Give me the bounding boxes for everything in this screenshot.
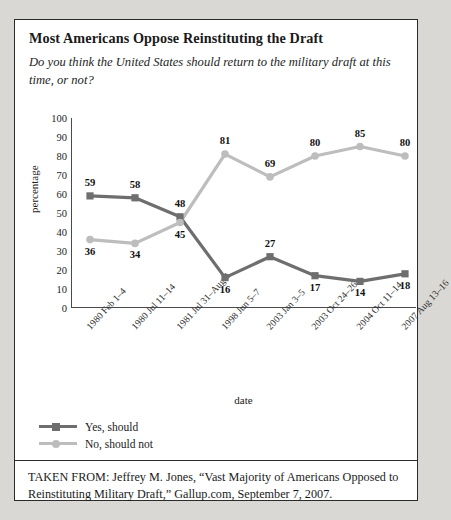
data-point-marker bbox=[131, 194, 138, 201]
data-point-marker bbox=[86, 192, 93, 199]
legend-label: Yes, should bbox=[85, 421, 138, 433]
y-axis-label: percentage bbox=[28, 165, 40, 213]
x-axis-label: date bbox=[71, 394, 416, 406]
data-value-label: 34 bbox=[130, 249, 141, 260]
data-point-marker bbox=[176, 219, 184, 227]
y-axis-tick: 20 bbox=[57, 265, 68, 276]
line-chart: percentage date 1009080706050403020100 1… bbox=[15, 106, 419, 411]
data-point-marker bbox=[401, 270, 408, 277]
data-value-label: 58 bbox=[130, 179, 141, 190]
data-value-label: 80 bbox=[400, 137, 411, 148]
legend-swatch-circle-icon bbox=[39, 437, 77, 451]
data-point-marker bbox=[401, 152, 409, 160]
data-point-marker bbox=[86, 236, 94, 244]
y-axis-tick: 90 bbox=[57, 132, 68, 143]
series-line bbox=[90, 196, 405, 282]
figure-card: Most Americans Oppose Reinstituting the … bbox=[14, 19, 418, 501]
chart-legend: Yes, shouldNo, should not bbox=[39, 418, 153, 452]
legend-item[interactable]: Yes, should bbox=[39, 418, 153, 435]
data-point-marker bbox=[266, 173, 274, 181]
data-value-label: 48 bbox=[175, 198, 186, 209]
page-title: Most Americans Oppose Reinstituting the … bbox=[29, 30, 405, 47]
y-axis-tick: 70 bbox=[57, 170, 68, 181]
data-point-marker bbox=[311, 272, 318, 279]
data-point-marker bbox=[221, 150, 229, 158]
y-axis-tick: 100 bbox=[51, 113, 67, 124]
data-value-label: 45 bbox=[175, 229, 186, 240]
data-value-label: 17 bbox=[310, 282, 321, 293]
source-note: TAKEN FROM: Jeffrey M. Jones, “Vast Majo… bbox=[28, 469, 406, 504]
data-point-marker bbox=[311, 152, 319, 160]
y-axis-tick: 50 bbox=[57, 208, 68, 219]
divider bbox=[15, 460, 417, 461]
data-value-label: 81 bbox=[220, 135, 231, 146]
data-value-label: 85 bbox=[355, 128, 366, 139]
y-axis-tick: 0 bbox=[62, 303, 67, 314]
data-value-label: 14 bbox=[355, 287, 366, 298]
data-value-label: 80 bbox=[310, 137, 321, 148]
data-value-label: 18 bbox=[400, 280, 411, 291]
data-value-label: 59 bbox=[85, 177, 96, 188]
series-lines bbox=[72, 118, 417, 308]
y-axis-tick: 10 bbox=[57, 284, 68, 295]
data-point-marker bbox=[221, 274, 228, 281]
data-value-label: 69 bbox=[265, 158, 276, 169]
legend-swatch-square-icon bbox=[39, 420, 77, 434]
data-point-marker bbox=[356, 143, 364, 151]
legend-label: No, should not bbox=[85, 438, 153, 450]
y-axis-tick: 60 bbox=[57, 189, 68, 200]
legend-item[interactable]: No, should not bbox=[39, 435, 153, 452]
y-axis-tick: 80 bbox=[57, 151, 68, 162]
data-point-marker bbox=[266, 253, 273, 260]
data-value-label: 27 bbox=[265, 238, 276, 249]
y-axis-tick: 40 bbox=[57, 227, 68, 238]
plot-area: 1009080706050403020100 1980 Feb 1–41980 … bbox=[71, 118, 416, 308]
data-value-label: 16 bbox=[220, 284, 231, 295]
chart-subtitle: Do you think the United States should re… bbox=[29, 54, 401, 90]
y-axis-tick: 30 bbox=[57, 246, 68, 257]
data-point-marker bbox=[356, 278, 363, 285]
data-point-marker bbox=[131, 240, 139, 248]
data-value-label: 36 bbox=[85, 246, 96, 257]
